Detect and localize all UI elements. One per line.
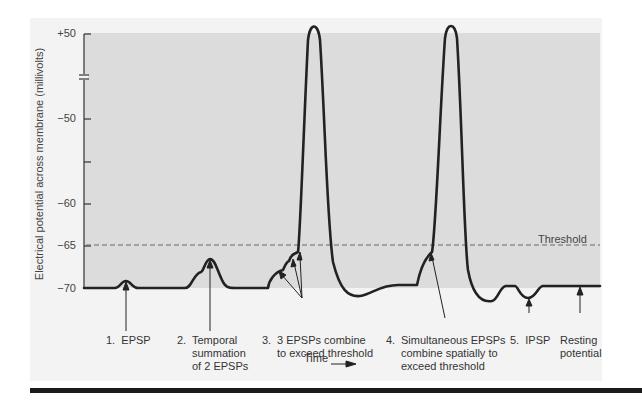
y-axis-label: Electrical potential across membrane (mi… (33, 34, 45, 294)
annotation-spatial-summation: 4. Simultaneous EPSPs combine spatially … (386, 334, 506, 373)
annotation-number: 3. (262, 334, 271, 347)
bottom-rule (30, 388, 642, 393)
annotation-text: IPSP (525, 334, 550, 346)
annotation-number: 4. (386, 334, 395, 347)
annotation-line: Resting (560, 334, 602, 347)
annotation-text: EPSP (121, 334, 150, 346)
arrow-head-icon (291, 259, 296, 267)
annotation-line: combine spatially to (401, 347, 506, 360)
threshold-label: Threshold (538, 233, 587, 245)
annotation-number: 2. (177, 334, 186, 347)
x-axis-label: Time (304, 352, 328, 364)
annotation-line: exceed threshold (401, 360, 506, 373)
annotation-number: 5. (510, 334, 519, 346)
annotation-line: Simultaneous EPSPs (401, 334, 506, 347)
annotation-line: of 2 EPSPs (192, 360, 248, 373)
arrow-head-icon (526, 299, 532, 306)
annotation-line: Temporal (192, 334, 248, 347)
annotation-temporal-summation: 2. Temporal summation of 2 EPSPs (177, 334, 248, 373)
arrow-head-icon (577, 287, 583, 295)
axis-break-icon (79, 74, 89, 80)
time-arrow-icon (346, 361, 356, 367)
annotation-ipsp: 5. IPSP (510, 334, 550, 347)
annotation-line: potential (560, 347, 602, 360)
arrow-head-icon (123, 282, 129, 290)
annotation-line: summation (192, 347, 248, 360)
annotation-line: 3 EPSPs combine (277, 334, 373, 347)
annotation-number: 1. (106, 334, 115, 346)
annotation-resting-potential: Resting potential (560, 334, 602, 360)
y-axis (84, 34, 91, 288)
membrane-potential-trace (84, 26, 600, 301)
annotation-epsp: 1. EPSP (106, 334, 151, 347)
